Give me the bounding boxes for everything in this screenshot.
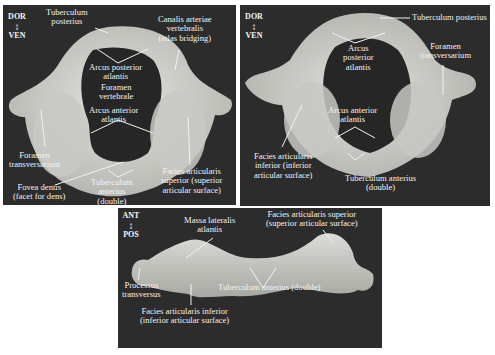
orientation-bottom: VEN: [246, 31, 263, 40]
label-facies-articularis-inferior: Facies articularis inferior (inferior ar…: [254, 152, 312, 180]
label-canalis-arteriae-vertebralis: Canalis arteriae vertebralis (atlas brid…: [158, 15, 212, 43]
label-processus-transversus: Processus transversus: [122, 281, 161, 300]
label-fovea-dentis: Fovea dentis (facet for dens): [13, 183, 66, 202]
label-arcus-posterior: Arcus posterior atlantis: [343, 44, 374, 72]
orientation-top: ANT: [123, 211, 140, 220]
panel-inferior-view: DOR ↕ VEN Tuberculum posterius Arcus pos…: [240, 5, 490, 206]
label-tuberculum-anterius: Tuberculum anterius (double): [345, 174, 416, 193]
label-facies-articularis-superior: Facies articularis superior (superior ar…: [161, 167, 222, 195]
orientation-indicator: DOR ↕ VEN: [6, 13, 28, 40]
label-massa-lateralis: Massa lateralis atlantis: [184, 216, 235, 235]
label-arcus-anterior: Arcus anterior atlantis: [89, 106, 138, 125]
orientation-indicator: ANT ↕ POS: [120, 212, 142, 239]
label-arcus-posterior: Arcus posterior atlantis: [89, 63, 142, 82]
orientation-indicator: DOR ↕ VEN: [243, 13, 265, 40]
orientation-bottom: POS: [123, 230, 139, 239]
label-tuberculum-posterius: Tuberculum posterius: [412, 13, 487, 22]
label-foramen-transversarium: Foramen transversarium: [9, 151, 60, 170]
label-arcus-anterior: Arcus anterior atlantis: [328, 106, 377, 125]
panel-superior-view: DOR ↕ VEN Tuberculum posterius Canalis a…: [3, 5, 236, 205]
label-foramen-vertebrale: Foramen vertebrale: [99, 83, 133, 102]
label-tuberculum-posterius: Tuberculum posterius: [46, 8, 88, 27]
atlas-bone-anterior-image: [118, 208, 382, 348]
label-facies-articularis-inferior: Facies articularis inferior (inferior ar…: [140, 307, 229, 326]
orientation-top: DOR: [8, 12, 26, 21]
label-tuberculum-anterius: Tuberculum anterius (double): [91, 178, 133, 205]
label-facies-articularis-superior: Facies articularis superior (superior ar…: [266, 210, 358, 229]
panel-anterior-view: ANT ↕ POS Massa lateralis atlantis Facie…: [118, 208, 382, 348]
label-tuberculum-anterius: Tuberculum anterius (double): [218, 283, 320, 292]
orientation-bottom: VEN: [9, 31, 26, 40]
orientation-top: DOR: [245, 12, 263, 21]
label-foramen-transversarium: Foramen transversarium: [420, 42, 471, 61]
